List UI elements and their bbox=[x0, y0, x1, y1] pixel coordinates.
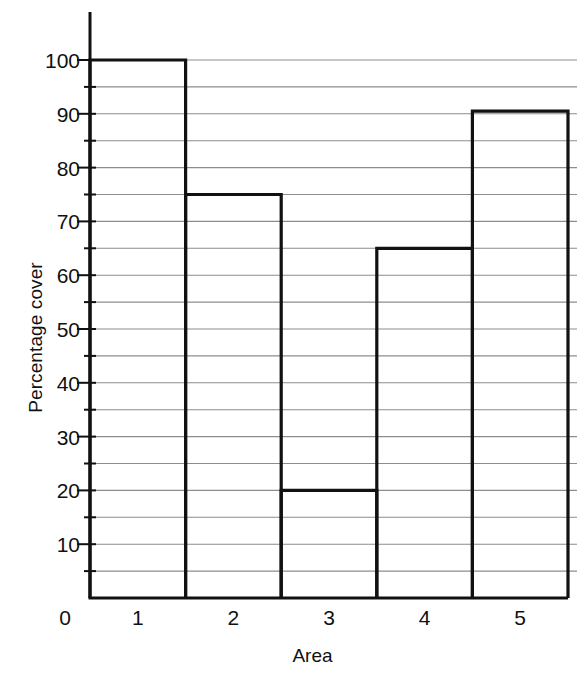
percentage-cover-bar-chart: Percentage cover 102030405060708090100 0… bbox=[0, 0, 583, 675]
plot-area bbox=[0, 0, 583, 675]
bar-5 bbox=[472, 111, 568, 598]
bar-4 bbox=[377, 248, 473, 598]
x-axis-title-text: Area bbox=[292, 645, 332, 666]
axis-tick-marks bbox=[77, 60, 96, 571]
x-tick-label-2: 2 bbox=[228, 607, 240, 628]
x-tick-label-4: 4 bbox=[419, 607, 431, 628]
x-tick-label-5: 5 bbox=[514, 607, 526, 628]
x-tick-label-origin: 0 bbox=[59, 607, 71, 628]
x-axis-title: Area bbox=[0, 645, 583, 667]
x-tick-label-1: 1 bbox=[132, 607, 144, 628]
bar-2 bbox=[186, 195, 282, 599]
x-tick-label-3: 3 bbox=[323, 607, 335, 628]
gridlines bbox=[90, 60, 577, 571]
axis-lines bbox=[89, 12, 569, 598]
